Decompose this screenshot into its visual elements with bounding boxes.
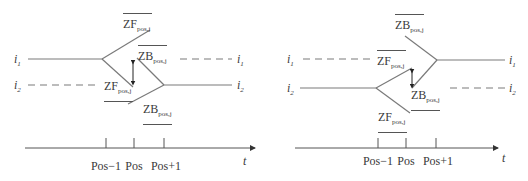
- left-i1-label-right: i1: [237, 53, 244, 70]
- right-merge-upper: [405, 36, 437, 60]
- right-diagram: [300, 36, 505, 113]
- left-zb-mid-label: ZBpos,j: [138, 45, 167, 67]
- left-tick-label-pos-minus-1: Pos−1: [91, 160, 121, 172]
- right-i1-label-left: i1: [287, 53, 294, 70]
- left-i1-label-left: i1: [14, 53, 21, 70]
- right-zb-top-label: ZBpos,j: [395, 14, 424, 36]
- right-merge-lower: [412, 60, 437, 88]
- left-i2-label-right: i2: [237, 79, 244, 96]
- right-tick-label-pos-minus-1: Pos−1: [363, 155, 393, 167]
- right-zb-low-label: ZBpos,j: [411, 89, 440, 111]
- left-zf-top-label: ZFpos,j: [123, 13, 152, 35]
- right-i2-label-right: i2: [509, 82, 516, 99]
- right-zf-mid-label: ZFpos,j: [377, 50, 406, 72]
- right-tick-label-pos-plus-1: Pos+1: [423, 155, 453, 167]
- right-zf-low-label: ZFpos,j: [378, 111, 407, 133]
- left-tick-label-pos: Pos: [125, 160, 142, 172]
- right-time-axis: [295, 138, 498, 148]
- left-zf-low-label: ZFpos,j: [104, 80, 133, 102]
- left-i2-label-left: i2: [14, 79, 21, 96]
- left-time-axis: [25, 138, 255, 148]
- left-axis-label-t: t: [243, 155, 246, 167]
- right-tick-label-pos: Pos: [397, 155, 414, 167]
- left-tick-label-pos-plus-1: Pos+1: [151, 160, 181, 172]
- right-i2-label-left: i2: [287, 82, 294, 99]
- right-axis-label-t: t: [502, 152, 505, 164]
- left-zb-low-label: ZBpos,j: [143, 103, 172, 125]
- right-i1-label-right: i1: [509, 54, 516, 71]
